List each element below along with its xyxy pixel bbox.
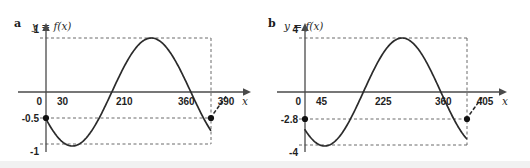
panel-b: b y = f(x) 4 0 -2 [265, 0, 530, 161]
panel-b-start-point [302, 116, 308, 122]
panel-a-start-point [43, 115, 49, 121]
panel-b-x-axis-name: x [502, 95, 508, 107]
panel-b-xtick-225: 225 [375, 96, 392, 107]
panel-a-xtick-390: 390 [218, 96, 235, 107]
panel-a-xtick-210: 210 [116, 96, 133, 107]
panel-b-ytick-4: 4 [292, 24, 298, 35]
panel-b-ytick-neg-4: -4 [289, 147, 298, 158]
panel-a-xtick-360: 360 [178, 96, 195, 107]
panel-a-plot: 1 0 -0.5 -1 30 210 360 390 x [0, 0, 265, 161]
bottom-band [0, 161, 530, 168]
panel-a-ytick-neg-half: -0.5 [22, 113, 40, 124]
panel-b-ytick-0: 0 [295, 96, 301, 107]
panel-b-ytick-neg-2-8: -2.8 [281, 114, 299, 125]
panel-a-end-point [208, 115, 214, 121]
panel-a-ytick-neg-1: -1 [30, 146, 39, 157]
panel-b-xtick-405: 405 [477, 96, 494, 107]
panel-b-plot: 4 0 -2.8 -4 45 225 360 405 x [265, 0, 530, 161]
panel-a: a y = f(x) [0, 0, 265, 161]
panel-b-y-axis-arrow [301, 23, 309, 31]
panel-b-end-point [464, 116, 470, 122]
panel-a-ytick-0: 0 [36, 96, 42, 107]
panel-a-x-axis-name: x [242, 95, 248, 107]
panel-b-xtick-45: 45 [316, 96, 328, 107]
figure-root: a y = f(x) [0, 0, 530, 168]
panel-a-ytick-1: 1 [33, 24, 39, 35]
panel-a-xtick-30: 30 [57, 96, 69, 107]
panel-b-xtick-360: 360 [435, 96, 452, 107]
panel-a-y-axis-arrow [42, 23, 50, 31]
